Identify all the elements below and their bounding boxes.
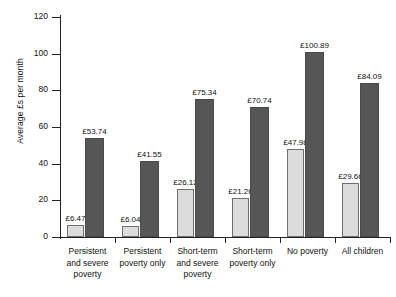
- bar-value-label: £53.74: [82, 127, 106, 136]
- plot-area: £6.47£53.74£6.04£41.55£26.12£75.34£21.26…: [60, 17, 390, 237]
- category-label-line: poverty only: [112, 258, 174, 270]
- bar-value-label: £6.47: [65, 214, 85, 223]
- category-label-line: poverty: [57, 269, 119, 281]
- category-label-line: Persistent: [112, 246, 174, 258]
- x-axis-tick-end: [390, 238, 391, 243]
- y-axis-tick-label: 100: [2, 48, 48, 58]
- x-axis-tick: [280, 238, 281, 243]
- y-axis-tick: [52, 200, 60, 201]
- bar-value-label: £100.89: [300, 41, 329, 50]
- x-axis-category-label: Persistentpoverty only: [112, 246, 174, 269]
- x-axis-category-label: Short-termpoverty only: [222, 246, 284, 269]
- x-axis-tick: [170, 238, 171, 243]
- y-axis-tick-label: 40: [2, 158, 48, 168]
- category-label-line: Short-term: [222, 246, 284, 258]
- bar-light-series-2: [177, 189, 194, 237]
- bar-dark-series-2: [195, 99, 214, 237]
- bar-value-label: £70.74: [247, 96, 271, 105]
- y-axis-tick: [52, 54, 60, 55]
- y-axis-tick-label: 20: [2, 194, 48, 204]
- bar-light-series-1: [122, 226, 139, 237]
- x-axis-category-label: All children: [332, 246, 394, 258]
- bar-value-label: £84.09: [357, 72, 381, 81]
- category-label-line: poverty: [167, 269, 229, 281]
- bar-dark-series-5: [360, 83, 379, 237]
- category-label-line: All children: [332, 246, 394, 258]
- category-label-line: and severe: [167, 258, 229, 270]
- y-axis-tick: [52, 237, 60, 238]
- category-label-line: Short-term: [167, 246, 229, 258]
- bar-light-series-5: [342, 183, 359, 237]
- bar-dark-series-0: [85, 138, 104, 237]
- category-label-line: No poverty: [277, 246, 339, 258]
- x-axis-category-label: Persistentand severepoverty: [57, 246, 119, 281]
- bar-light-series-3: [232, 198, 249, 237]
- y-axis-tick: [52, 90, 60, 91]
- category-label-line: and severe: [57, 258, 119, 270]
- y-axis-tick: [52, 127, 60, 128]
- y-axis-tick: [52, 17, 60, 18]
- bar-value-label: £75.34: [192, 88, 216, 97]
- bar-dark-series-1: [140, 161, 159, 237]
- category-label-line: Persistent: [57, 246, 119, 258]
- bar-light-series-0: [67, 225, 84, 237]
- y-axis-tick-labels: 020406080100120: [0, 0, 48, 297]
- x-axis-tick: [115, 238, 116, 243]
- x-axis-tick: [335, 238, 336, 243]
- bar-value-label: £6.04: [120, 215, 140, 224]
- y-axis-tick-label: 0: [2, 231, 48, 241]
- bar-dark-series-3: [250, 107, 269, 237]
- category-label-line: poverty only: [222, 258, 284, 270]
- x-axis-tick: [225, 238, 226, 243]
- x-axis-category-label: Short-termand severepoverty: [167, 246, 229, 281]
- bar-light-series-4: [287, 149, 304, 237]
- y-axis-tick-label: 120: [2, 11, 48, 21]
- y-axis-tick: [52, 164, 60, 165]
- x-axis-category-label: No poverty: [277, 246, 339, 258]
- bar-chart: Average £s per month 020406080100120 £6.…: [0, 0, 396, 297]
- bar-dark-series-4: [305, 52, 324, 237]
- bar-value-label: £41.55: [137, 150, 161, 159]
- y-axis-tick-label: 60: [2, 121, 48, 131]
- y-axis-tick-label: 80: [2, 84, 48, 94]
